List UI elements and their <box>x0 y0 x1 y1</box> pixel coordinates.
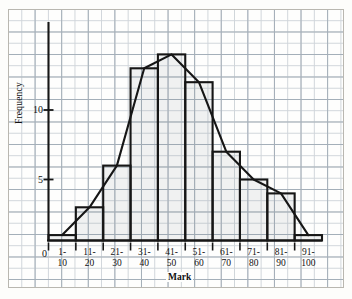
x-axis-category-label: 91-100 <box>288 247 328 268</box>
y-axis-label: Frequency <box>14 82 24 124</box>
histogram-bar <box>240 180 267 241</box>
histogram-bar <box>76 207 103 240</box>
y-tick-label-10: 10 <box>33 105 43 115</box>
x-axis-label: Mark <box>166 272 193 282</box>
histogram-bar <box>131 68 158 240</box>
x-category-range-start: 91- <box>288 247 328 257</box>
histogram-bars <box>49 54 323 240</box>
histogram-bar <box>267 193 294 240</box>
x-category-range-end: 100 <box>288 258 328 268</box>
chart-figure: Frequency 0 10 5 1-1011-2021-3031-4041-5… <box>0 0 352 299</box>
histogram-bar <box>103 166 130 241</box>
histogram-bar <box>213 152 240 241</box>
histogram-bar <box>158 54 185 240</box>
y-tick-label-5: 5 <box>38 175 43 185</box>
plot-area: Frequency 0 10 5 1-1011-2021-3031-4041-5… <box>0 0 352 299</box>
